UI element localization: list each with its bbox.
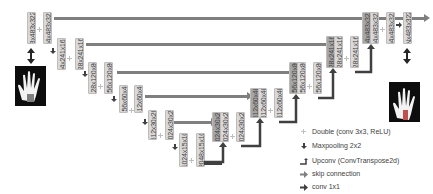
- upconv-arrow-4: [241, 122, 260, 146]
- legend-item-conv1x1: conv 1x1: [300, 183, 340, 190]
- legend-item-maxpool: Maxpooling 2x2: [300, 142, 361, 149]
- legend-item-skip: skip connection: [300, 170, 360, 177]
- double-conv-icon: [300, 129, 308, 135]
- upconv-arrow-3: [279, 98, 296, 122]
- unet-diagram: 3x483x322 64x483x322 64x241x161 128x241x…: [0, 0, 433, 194]
- legend-item-upconv: Upconv (ConvTranspose2d): [300, 157, 399, 164]
- input-hand-image: [15, 66, 46, 106]
- maxpool-icon: [300, 143, 308, 149]
- output-hand-segmentation: [389, 82, 420, 122]
- upconv-arrow-2: [318, 72, 333, 98]
- upconv-arrow-5: [204, 146, 223, 162]
- legend-item-double-conv: Double (conv 3x3, ReLU): [300, 128, 391, 135]
- upconv-arrow-1: [355, 48, 371, 72]
- skip-connection-icon: [300, 171, 308, 177]
- conv1x1-icon: [300, 184, 308, 190]
- upconv-icon: [300, 158, 308, 164]
- upconv-arrows: [0, 0, 433, 194]
